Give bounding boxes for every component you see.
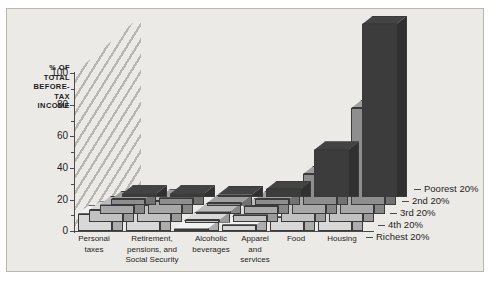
x-category-label-line: and <box>230 245 280 256</box>
bar-front-face <box>255 199 289 205</box>
bar-front-face <box>233 215 267 223</box>
bar-3rd-20--personal-taxes <box>100 205 134 214</box>
legend-leader-line <box>378 225 385 226</box>
bar-front-face <box>314 150 348 197</box>
legend-item-4th-20: 4th 20% <box>378 219 423 230</box>
bar-front-face <box>222 225 256 231</box>
bar-poorest-20--retirement-pensions-and- <box>170 194 204 197</box>
bar-front-face <box>122 194 156 197</box>
bar-3rd-20--apparel-and-services <box>244 206 278 214</box>
x-category-label-line: Food <box>278 234 314 245</box>
x-category-label-line: taxes <box>66 245 122 256</box>
bar-richest-20--alcoholic-beverages <box>174 229 208 232</box>
bar-front-face <box>170 194 204 197</box>
chart-figure: % OF TOTAL BEFORE- TAX INCOME 100 80 60 … <box>0 0 497 285</box>
bar-poorest-20--alcoholic-beverages <box>218 195 252 198</box>
bar-4th-20--alcoholic-beverages <box>185 220 219 223</box>
legend-leader-line <box>402 201 409 202</box>
bar-2nd-20--personal-taxes <box>111 199 145 205</box>
bar-front-face <box>207 203 241 206</box>
bar-side-face <box>396 16 407 197</box>
bar-poorest-20--housing <box>362 24 396 197</box>
legend-label: Richest 20% <box>376 231 429 242</box>
x-category-label-line: pensions, and <box>116 245 188 256</box>
bar-front-face <box>159 198 193 206</box>
legend-leader-line <box>366 237 373 238</box>
x-category-label-personal-taxes: Personaltaxes <box>66 234 122 255</box>
x-category-label-retirement: Retirement,pensions, andSocial Security <box>116 234 188 266</box>
x-category-label-line: Social Security <box>116 255 188 266</box>
bar-front-face <box>174 229 208 232</box>
bar-front-face <box>218 195 252 198</box>
legend-label: Poorest 20% <box>424 183 478 194</box>
bar-2nd-20--apparel-and-services <box>255 199 289 205</box>
legend-label: 4th 20% <box>388 219 423 230</box>
x-category-label-line: Retirement, <box>116 234 188 245</box>
x-category-label-housing: Housing <box>318 234 366 245</box>
x-category-label-food: Food <box>278 234 314 245</box>
legend-leader-line <box>414 189 421 190</box>
bar-front-face <box>100 205 134 214</box>
bar-2nd-20--alcoholic-beverages <box>207 203 241 206</box>
x-category-label-line: Housing <box>318 234 366 245</box>
x-category-label-line: Personal <box>66 234 122 245</box>
bar-front-face <box>244 206 278 214</box>
bar-poorest-20--apparel-and-services <box>266 189 300 197</box>
legend-leader-line <box>390 213 397 214</box>
x-category-label-apparel-and-services: Apparelandservices <box>230 234 280 266</box>
bar-front-face <box>185 220 219 223</box>
bar-poorest-20--food <box>314 150 348 197</box>
legend-item-richest-20: Richest 20% <box>366 231 429 242</box>
bar-front-face <box>196 212 230 215</box>
bar-2nd-20--retirement-pensions-and- <box>159 198 193 206</box>
legend-label: 2nd 20% <box>412 195 450 206</box>
bar-front-face <box>266 189 300 197</box>
legend-item-3rd-20: 3rd 20% <box>390 207 435 218</box>
bar-3rd-20--alcoholic-beverages <box>196 212 230 215</box>
x-category-label-line: Apparel <box>230 234 280 245</box>
bar-front-face <box>362 24 396 197</box>
bar-side-face <box>348 141 359 197</box>
legend-label: 3rd 20% <box>400 207 435 218</box>
legend-item-poorest-20: Poorest 20% <box>414 183 478 194</box>
bar-front-face <box>111 199 145 205</box>
bar-richest-20--apparel-and-services <box>222 225 256 231</box>
legend-item-2nd-20: 2nd 20% <box>402 195 450 206</box>
x-category-label-line: services <box>230 255 280 266</box>
bar-poorest-20--personal-taxes <box>122 194 156 197</box>
bar-4th-20--apparel-and-services <box>233 215 267 223</box>
